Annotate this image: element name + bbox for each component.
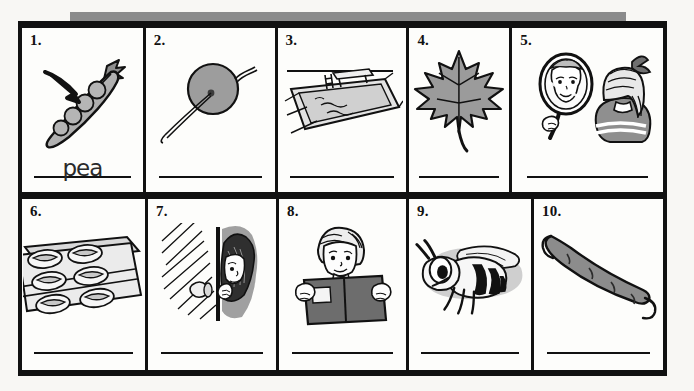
answer-line-7[interactable] (161, 352, 263, 354)
worksheet-page: 1. (0, 0, 694, 391)
picture-girl-with-mirror (512, 44, 663, 158)
answer-line-10[interactable] (547, 352, 650, 354)
picture-swimming-pool (278, 44, 407, 158)
answer-line-9[interactable] (421, 352, 519, 354)
answer-line-3[interactable] (290, 176, 393, 178)
worksheet-cell-4[interactable]: 4. (409, 28, 512, 192)
answer-line-2[interactable] (159, 176, 262, 178)
picture-child-reading-book (279, 215, 406, 336)
answer-line-1[interactable] (34, 176, 131, 178)
picture-bee (409, 215, 531, 336)
worksheet-row-2: 6. (22, 199, 663, 370)
picture-girl-peeking-door (148, 215, 276, 336)
answer-line-6[interactable] (34, 352, 132, 354)
picture-balloon-on-string (146, 44, 275, 158)
worksheet-cell-9[interactable]: 9. (409, 199, 534, 370)
picture-maple-leaf (409, 44, 509, 158)
worksheet-cell-7[interactable]: 7. (148, 199, 279, 370)
worksheet-cell-8[interactable]: 8. (279, 199, 409, 370)
row-divider (22, 192, 663, 199)
worksheet-cell-6[interactable]: 6. (22, 199, 148, 370)
picture-pea-pod-with-arrow (22, 44, 143, 158)
worksheet-cell-2[interactable]: 2. (146, 28, 278, 192)
worksheet-cell-3[interactable]: 3. (278, 28, 410, 192)
worksheet-cell-5[interactable]: 5. (512, 28, 663, 192)
worksheet-cell-10[interactable]: 10. (534, 199, 663, 370)
worksheet-row-1: 1. (22, 28, 663, 192)
picture-pea-pod (534, 215, 663, 336)
answer-line-8[interactable] (292, 352, 394, 354)
worksheet-frame: 1. (18, 21, 667, 376)
answer-line-4[interactable] (419, 176, 499, 178)
answer-line-5[interactable] (527, 176, 648, 178)
worksheet-cell-1[interactable]: 1. (22, 28, 146, 192)
picture-tray-of-rolls (22, 215, 145, 336)
